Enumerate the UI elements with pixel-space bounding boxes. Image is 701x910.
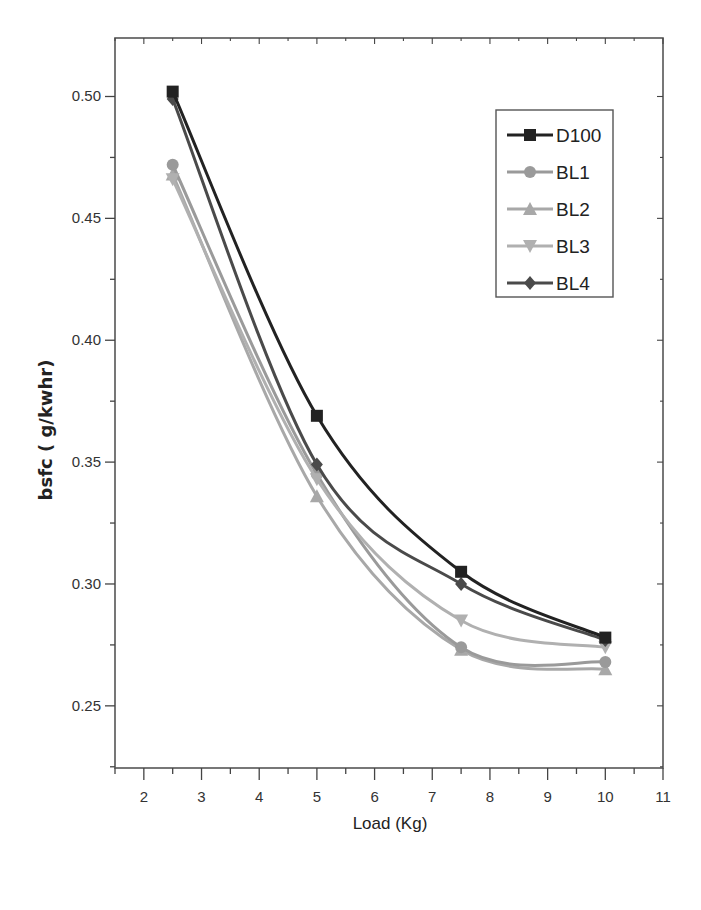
square-marker — [311, 410, 323, 422]
legend-label: D100 — [556, 125, 601, 146]
x-tick-label: 10 — [597, 788, 614, 805]
bsfc-vs-load-chart: 234567891011 0.250.300.350.400.450.50 D1… — [0, 0, 701, 910]
x-tick-label: 9 — [543, 788, 551, 805]
y-tick-label: 0.30 — [72, 575, 101, 592]
x-tick-label: 6 — [370, 788, 378, 805]
square-marker — [455, 566, 467, 578]
y-tick-label: 0.50 — [72, 87, 101, 104]
diamond-marker — [455, 577, 467, 591]
x-tick-label: 8 — [486, 788, 494, 805]
x-tick-label: 3 — [197, 788, 205, 805]
x-tick-label: 7 — [428, 788, 436, 805]
y-tick-label: 0.35 — [72, 453, 101, 470]
square-marker — [599, 632, 611, 644]
legend: D100BL1BL2BL3BL4 — [496, 110, 613, 297]
x-tick-label: 4 — [255, 788, 263, 805]
legend-label: BL4 — [556, 273, 590, 294]
triangle-up-marker — [310, 489, 324, 502]
square-marker — [167, 86, 179, 98]
y-tick-label: 0.40 — [72, 331, 101, 348]
legend-label: BL3 — [556, 236, 590, 257]
circle-marker — [455, 641, 467, 653]
x-tick-label: 5 — [313, 788, 321, 805]
legend-label: BL2 — [556, 199, 590, 220]
y-axis-title: bsfc ( g/kwhr) — [35, 360, 56, 501]
triangle-down-marker — [454, 615, 468, 628]
y-tick-label: 0.25 — [72, 697, 101, 714]
square-marker — [524, 129, 536, 141]
circle-marker — [599, 656, 611, 668]
circle-marker — [524, 166, 536, 178]
legend-label: BL1 — [556, 162, 590, 183]
circle-marker — [167, 159, 179, 171]
y-tick-label: 0.45 — [72, 209, 101, 226]
x-axis-title: Load (Kg) — [353, 814, 428, 833]
x-tick-label: 2 — [140, 788, 148, 805]
x-tick-label: 11 — [655, 788, 671, 805]
